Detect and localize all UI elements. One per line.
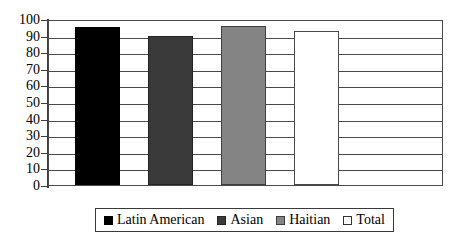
legend-swatch-icon [217, 216, 226, 225]
y-axis-tick-mark [41, 53, 48, 54]
bars-layer [49, 21, 442, 185]
legend-item[interactable]: Total [343, 213, 385, 227]
y-axis-tick-label: 70 [4, 63, 40, 77]
y-axis-tick-mark [41, 186, 48, 187]
legend-item[interactable]: Latin American [104, 213, 204, 227]
y-axis-tick-label: 80 [4, 46, 40, 60]
y-axis-tick-mark [41, 120, 48, 121]
y-axis-tick-label: 60 [4, 79, 40, 93]
legend-swatch-icon [343, 216, 352, 225]
y-axis-tick-label: 20 [4, 146, 40, 160]
y-axis-tick-mark [41, 103, 48, 104]
y-axis-tick-label: 90 [4, 30, 40, 44]
y-axis-tick-label: 10 [4, 162, 40, 176]
y-axis-labels: 1009080706050403020100 [0, 0, 40, 238]
bar-asian [148, 36, 193, 185]
bar-chart: 1009080706050403020100 Latin AmericanAsi… [0, 0, 458, 238]
y-axis-tick-mark [41, 153, 48, 154]
y-axis-tick-mark [41, 86, 48, 87]
y-axis-tick-mark [41, 37, 48, 38]
legend-swatch-icon [276, 216, 285, 225]
y-axis-tick-label: 30 [4, 129, 40, 143]
bar-total [294, 31, 339, 185]
legend-item-label: Total [356, 213, 385, 227]
y-axis-tick-label: 40 [4, 113, 40, 127]
y-axis-tick-mark [41, 169, 48, 170]
y-axis-tick-mark [41, 20, 48, 21]
chart-legend: Latin AmericanAsianHaitianTotal [95, 208, 394, 232]
bar-latin-american [75, 27, 120, 185]
bar-haitian [221, 26, 266, 185]
legend-item[interactable]: Asian [217, 213, 263, 227]
y-axis-tick-label: 50 [4, 96, 40, 110]
y-axis-tick-label: 0 [4, 179, 40, 193]
legend-item-label: Latin American [117, 213, 204, 227]
legend-item-label: Asian [230, 213, 263, 227]
plot-area-wrapper [48, 20, 443, 186]
legend-item-label: Haitian [289, 213, 330, 227]
legend-swatch-icon [104, 216, 113, 225]
y-axis-tick-mark [41, 136, 48, 137]
plot-area [48, 20, 443, 186]
y-axis-tick-label: 100 [4, 13, 40, 27]
y-axis-tick-mark [41, 70, 48, 71]
legend-item[interactable]: Haitian [276, 213, 330, 227]
